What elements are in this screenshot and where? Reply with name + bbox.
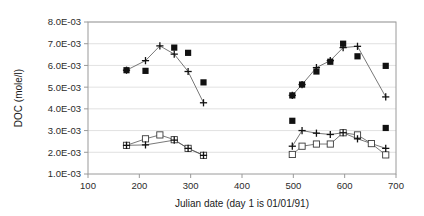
data-point-open-square bbox=[157, 132, 163, 138]
x-tick-labels: 100200300400500600700 bbox=[80, 180, 404, 191]
data-point-plus bbox=[327, 131, 334, 138]
x-tick-label: 600 bbox=[337, 180, 353, 191]
y-tick-label: 5.0E-03 bbox=[48, 82, 81, 93]
y-tick-label: 1.0E-03 bbox=[48, 168, 81, 179]
y-tick-labels: 1.0E-032.0E-033.0E-034.0E-035.0E-036.0E-… bbox=[48, 16, 81, 179]
data-point-filled-square bbox=[354, 53, 360, 59]
x-axis-title: Julian date (day 1 is 01/01/91) bbox=[175, 198, 309, 209]
data-point-filled-square bbox=[383, 63, 389, 69]
series-markers bbox=[123, 41, 389, 159]
y-axis-title: DOC (mole/l) bbox=[13, 69, 24, 127]
data-point-plus bbox=[298, 127, 305, 134]
data-point-open-square bbox=[289, 151, 295, 157]
y-tick-label: 6.0E-03 bbox=[48, 60, 81, 71]
series-line bbox=[127, 46, 204, 103]
x-tickmarks bbox=[88, 174, 396, 178]
data-point-plus bbox=[382, 93, 389, 100]
x-tick-label: 200 bbox=[131, 180, 147, 191]
data-point-open-square bbox=[142, 136, 148, 142]
data-point-open-square bbox=[383, 152, 389, 158]
data-point-filled-square bbox=[142, 68, 148, 74]
x-tick-label: 500 bbox=[285, 180, 301, 191]
series-line bbox=[127, 140, 204, 155]
data-point-filled-square bbox=[171, 45, 177, 51]
y-tick-label: 7.0E-03 bbox=[48, 38, 81, 49]
chart-canvas: 100200300400500600700 1.0E-032.0E-033.0E… bbox=[0, 0, 424, 216]
x-tick-label: 300 bbox=[183, 180, 199, 191]
data-point-plus bbox=[142, 141, 149, 148]
x-tick-label: 400 bbox=[234, 180, 250, 191]
data-point-plus bbox=[289, 143, 296, 150]
data-point-open-square bbox=[299, 143, 305, 149]
data-point-filled-square bbox=[289, 118, 295, 124]
series-line bbox=[292, 46, 385, 97]
plot-frame bbox=[88, 22, 396, 174]
data-point-filled-square bbox=[383, 125, 389, 131]
series-lines bbox=[127, 46, 386, 155]
y-tick-label: 4.0E-03 bbox=[48, 103, 81, 114]
data-point-plus bbox=[382, 145, 389, 152]
data-point-open-square bbox=[313, 141, 319, 147]
y-tick-label: 8.0E-03 bbox=[48, 16, 81, 27]
data-point-open-square bbox=[327, 141, 333, 147]
y-tick-label: 2.0E-03 bbox=[48, 147, 81, 158]
data-point-open-square bbox=[368, 141, 374, 147]
data-point-filled-square bbox=[185, 50, 191, 56]
data-point-plus bbox=[200, 99, 207, 106]
y-tick-label: 3.0E-03 bbox=[48, 125, 81, 136]
doc-vs-julian-date-chart: 100200300400500600700 1.0E-032.0E-033.0E… bbox=[0, 0, 424, 216]
y-tickmarks bbox=[84, 22, 88, 174]
data-point-filled-square bbox=[200, 79, 206, 85]
gridlines bbox=[88, 22, 396, 152]
x-tick-label: 700 bbox=[388, 180, 404, 191]
x-tick-label: 100 bbox=[80, 180, 96, 191]
